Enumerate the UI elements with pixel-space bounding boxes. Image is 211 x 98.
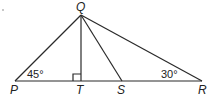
right-angle-marker-icon	[73, 74, 81, 81]
segment-pq	[15, 15, 81, 81]
stray-dot	[2, 9, 3, 10]
segment-qs	[81, 15, 122, 81]
segment-qr	[81, 15, 202, 81]
triangle-diagram: Q P T S R 45° 30°	[0, 0, 211, 98]
point-label-s: S	[117, 83, 125, 97]
point-label-r: R	[198, 83, 207, 97]
point-label-q: Q	[76, 0, 85, 14]
point-label-t: T	[76, 83, 85, 97]
angle-label-p: 45°	[27, 68, 44, 80]
point-label-p: P	[10, 83, 18, 97]
angle-label-r: 30°	[161, 68, 178, 80]
